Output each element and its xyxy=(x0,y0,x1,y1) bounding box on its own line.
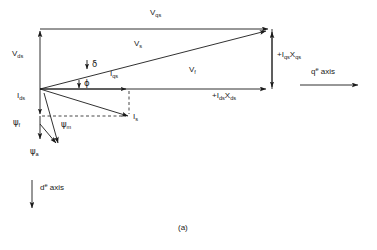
label-psi-a: ψa xyxy=(30,147,39,156)
label-iqs-xqs: +IqsXqs xyxy=(277,51,301,59)
label-v-qs: Vqs xyxy=(150,9,161,17)
label-i-ds: Ids xyxy=(17,92,25,100)
label-i-qs: Iqs xyxy=(110,70,118,78)
label-angle-phi: ϕ xyxy=(84,79,90,88)
phasor-diagram-canvas xyxy=(0,0,377,250)
label-i-s: Is xyxy=(133,113,138,121)
figure-caption: (a) xyxy=(178,224,188,232)
vector-psi-m xyxy=(44,93,58,143)
label-d-axis: de axis xyxy=(40,184,64,192)
label-v-f: Vf xyxy=(189,66,196,74)
label-angle-delta: δ xyxy=(92,60,97,69)
phasor-diagram-figure: Vqs Vds Vs Vf Iqs Ids Is +IqsXqs +IdsXds… xyxy=(0,0,377,250)
label-q-axis: qe axis xyxy=(311,68,335,76)
label-ids-xds: +IdsXds xyxy=(212,92,236,100)
label-psi-m: ψm xyxy=(61,120,71,129)
label-psi-f: ψf xyxy=(13,118,20,127)
label-v-s: Vs xyxy=(134,40,142,48)
vector-i-s xyxy=(40,89,128,116)
vector-v-s xyxy=(40,31,266,89)
label-v-ds: Vds xyxy=(12,50,23,58)
